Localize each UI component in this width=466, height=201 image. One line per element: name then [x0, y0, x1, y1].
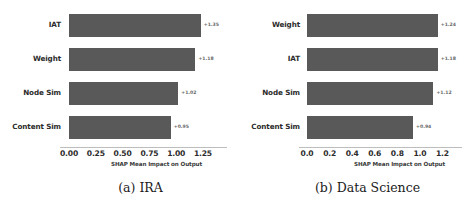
bar-value-label: +1.18 — [441, 57, 456, 62]
x-tick-label: 1.2 — [436, 149, 449, 158]
x-tick-label: 0.8 — [391, 149, 404, 158]
bar-row: +1.35 — [69, 14, 219, 37]
figure-row: IAT Weight Node Sim Content Sim +1.35 +1… — [0, 0, 466, 201]
subfigure-data-science: Weight IAT Node Sim Content Sim +1.24 +1… — [233, 0, 466, 201]
x-tick-label: 1.00 — [167, 149, 185, 158]
x-tick-label: 0.50 — [114, 149, 132, 158]
bar-value-label: +1.35 — [204, 23, 219, 28]
x-tick-label: 1.25 — [194, 149, 212, 158]
bar-row: +0.95 — [69, 116, 219, 139]
x-tick-label: 0.00 — [60, 149, 78, 158]
bar — [307, 14, 438, 37]
bar — [69, 48, 195, 71]
bar — [307, 82, 433, 105]
y-tick-label: Node Sim — [233, 89, 305, 96]
bar-value-label: +0.95 — [174, 125, 189, 130]
y-tick-label: Weight — [0, 55, 66, 62]
bar-row: +0.94 — [307, 116, 456, 139]
y-axis-labels-ira: IAT Weight Node Sim Content Sim — [0, 8, 66, 144]
y-tick-label: Node Sim — [0, 89, 66, 96]
bar-row: +1.12 — [307, 82, 456, 105]
y-axis-labels-data-science: Weight IAT Node Sim Content Sim — [233, 8, 305, 144]
x-axis-ticks-ira: 0.000.250.500.751.001.25 — [69, 149, 219, 161]
x-tick-label: 0.6 — [368, 149, 381, 158]
x-axis-line — [60, 147, 227, 148]
bar-value-label: +1.12 — [436, 91, 451, 96]
y-tick-label: Weight — [233, 21, 305, 28]
bar-row: +1.24 — [307, 14, 456, 37]
x-axis-line — [299, 147, 462, 148]
bar-value-label: +1.24 — [441, 23, 456, 28]
x-axis-ticks-data-science: 0.00.20.40.60.81.01.2 — [307, 149, 456, 161]
y-tick-label: Content Sim — [233, 123, 305, 130]
bar — [69, 14, 201, 37]
bars-container-ira: +1.35 +1.18 +1.02 +0.95 — [69, 8, 219, 144]
x-tick-label: 0.75 — [140, 149, 158, 158]
bar-row: +1.18 — [69, 48, 219, 71]
x-axis-label: SHAP Mean Impact on Output — [233, 161, 466, 167]
x-tick-label: 0.25 — [87, 149, 105, 158]
subfigure-caption: (b) Data Science — [233, 180, 466, 195]
bar-row: +1.18 — [307, 48, 456, 71]
y-tick-label: Content Sim — [0, 123, 66, 130]
x-tick-label: 0.2 — [323, 149, 336, 158]
subfigure-ira: IAT Weight Node Sim Content Sim +1.35 +1… — [0, 0, 233, 201]
plot-area-data-science: Weight IAT Node Sim Content Sim +1.24 +1… — [233, 0, 466, 166]
bar — [69, 82, 178, 105]
bar — [307, 116, 413, 139]
y-tick-label: IAT — [0, 21, 66, 28]
bar — [69, 116, 171, 139]
bar — [307, 48, 438, 71]
plot-area-ira: IAT Weight Node Sim Content Sim +1.35 +1… — [0, 0, 233, 166]
x-tick-label: 0.4 — [346, 149, 359, 158]
bars-container-data-science: +1.24 +1.18 +1.12 +0.94 — [307, 8, 456, 144]
x-tick-label: 0.0 — [301, 149, 314, 158]
y-tick-label: IAT — [233, 55, 305, 62]
bar-row: +1.02 — [69, 82, 219, 105]
bar-value-label: +1.18 — [198, 57, 213, 62]
bar-value-label: +0.94 — [416, 125, 431, 130]
x-tick-label: 1.0 — [413, 149, 426, 158]
bar-value-label: +1.02 — [181, 91, 196, 96]
subfigure-caption: (a) IRA — [0, 180, 257, 195]
